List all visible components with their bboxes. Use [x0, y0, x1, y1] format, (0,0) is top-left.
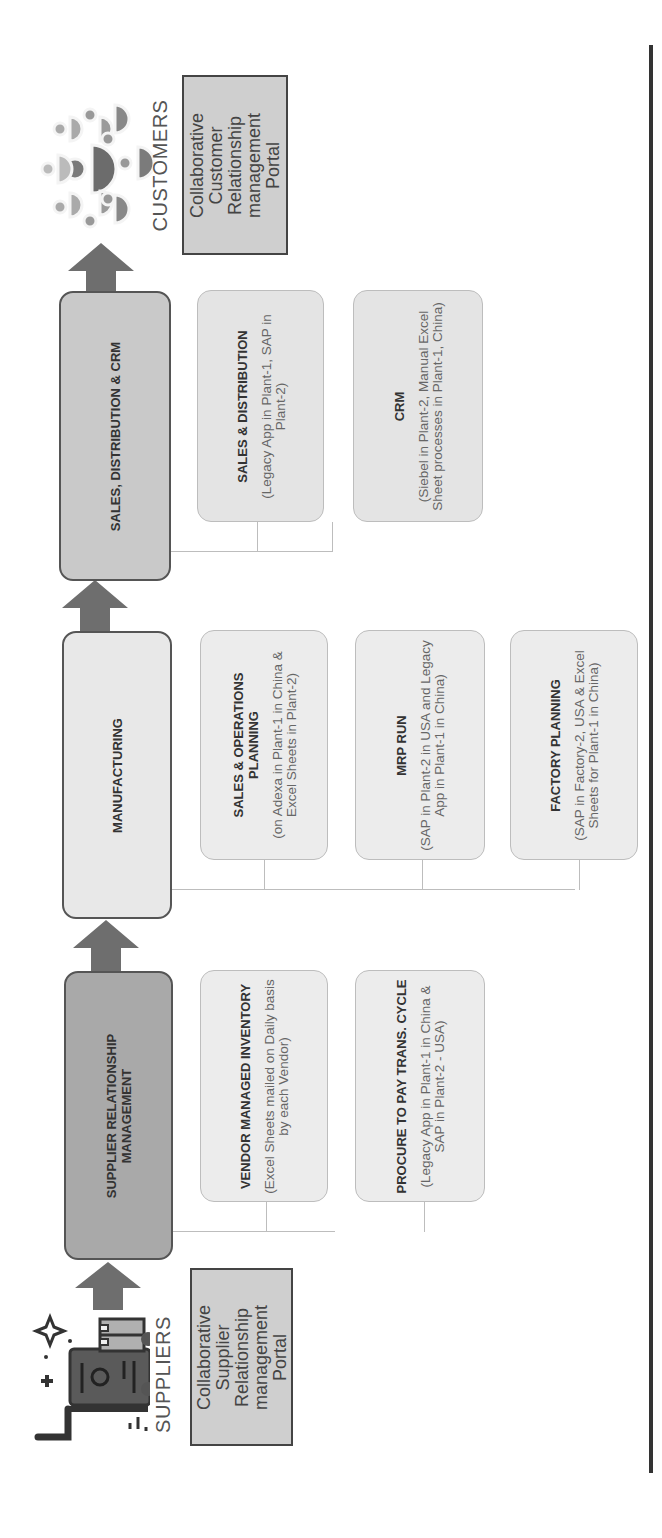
stage-sales-distribution-crm: SALES, DISTRIBUTION & CRM	[59, 291, 171, 581]
customer-portal-box: Collaborative Customer Relationship mana…	[182, 75, 288, 255]
customer-network-icon	[30, 95, 160, 240]
connector-sales-horizontal	[171, 551, 333, 552]
connector-sales-1	[257, 522, 258, 552]
arrow-sales-to-customers-icon	[66, 243, 136, 293]
supplier-portal-text: Collaborative Supplier Relationship mana…	[194, 1287, 289, 1427]
process-procure-to-pay: PROCURE TO PAY TRANS. CYCLE (Legacy App …	[355, 970, 485, 1202]
connector-manufacturing-3	[579, 860, 580, 890]
connector-srm-1	[266, 1202, 267, 1232]
suppliers-label: SUPPLIERS	[148, 1310, 178, 1438]
process-factory-planning: FACTORY PLANNING (SAP in Factory-2, USA …	[510, 630, 638, 860]
process-crm: CRM (Siebel in Plant-2, Manual Excel She…	[353, 290, 483, 522]
connector-manufacturing-1	[264, 860, 265, 890]
supplier-cart-icon	[30, 1305, 150, 1445]
arrow-manufacturing-to-sales-icon	[60, 580, 130, 632]
customers-label: CUSTOMERS	[145, 95, 175, 235]
connector-srm-2	[424, 1202, 425, 1232]
process-mrp-run: MRP RUN (SAP in Plant-2 in USA and Legac…	[355, 630, 485, 860]
stage-supplier-relationship-management: SUPPLIER RELATIONSHIP MANAGEMENT	[64, 971, 173, 1260]
process-vendor-managed-inventory: VENDOR MANAGED INVENTORY (Excel Sheets m…	[200, 970, 328, 1202]
process-sales-operations-planning: SALES & OPERATIONS PLANNING (on Adexa in…	[200, 630, 328, 860]
connector-manufacturing-horizontal	[172, 889, 575, 890]
connector-srm-horizontal	[173, 1231, 335, 1232]
frame-border-line	[649, 45, 653, 1473]
arrow-srm-to-manufacturing-icon	[71, 920, 141, 972]
connector-sales-2	[332, 522, 333, 552]
customer-portal-text: Collaborative Customer Relationship mana…	[188, 95, 283, 235]
arrow-suppliers-to-srm-icon	[73, 1262, 143, 1310]
process-sales-distribution: SALES & DISTRIBUTION (Legacy App in Plan…	[197, 290, 324, 522]
connector-manufacturing-2	[422, 860, 423, 890]
supplier-portal-box: Collaborative Supplier Relationship mana…	[190, 1268, 293, 1446]
stage-manufacturing: MANUFACTURING	[62, 631, 172, 919]
